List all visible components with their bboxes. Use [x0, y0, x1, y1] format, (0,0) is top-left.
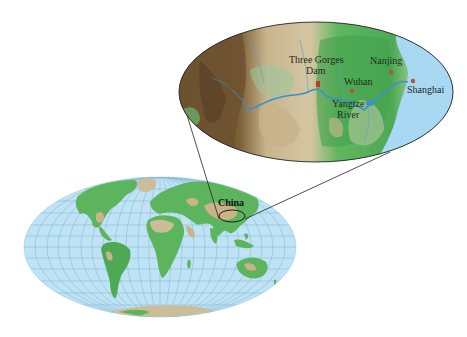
nanjing-label: Nanjing: [370, 55, 402, 66]
map-figure: China: [0, 0, 467, 337]
world-map: [20, 170, 300, 320]
china-label: China: [218, 197, 244, 208]
three-gorges-label-line2: Dam: [306, 65, 326, 76]
yangtze-label-line2: River: [337, 109, 360, 120]
wuhan-label: Wuhan: [344, 76, 372, 87]
three-gorges-label-line1: Three Gorges: [289, 54, 344, 65]
inset-map: Three Gorges Dam Wuhan Nanjing Shanghai …: [179, 22, 460, 170]
nanjing-marker: [389, 70, 393, 74]
lake: [366, 100, 374, 106]
shanghai-label: Shanghai: [407, 84, 444, 95]
yangtze-label-line1: Yangtze: [332, 98, 365, 109]
wuhan-marker: [350, 89, 354, 93]
shanghai-marker: [411, 79, 415, 83]
three-gorges-dam-marker: [316, 81, 320, 87]
